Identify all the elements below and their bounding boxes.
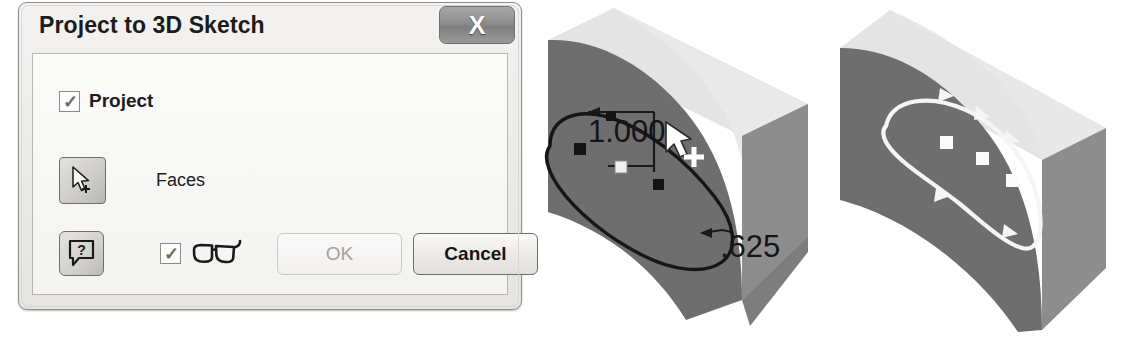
faces-select-button[interactable]: [59, 157, 106, 204]
faces-label: Faces: [156, 170, 205, 191]
dialog-title: Project to 3D Sketch: [39, 12, 265, 39]
ok-button[interactable]: OK: [277, 233, 402, 275]
sketch-point: [574, 143, 586, 155]
sketch-point: [606, 111, 616, 121]
project-to-3d-sketch-dialog: Project to 3D Sketch X ✓ Project: [18, 2, 522, 310]
close-button[interactable]: X: [439, 6, 515, 44]
dialog-titlebar: Project to 3D Sketch X: [19, 3, 521, 49]
cancel-button[interactable]: Cancel: [413, 233, 538, 275]
faces-selector-row: Faces: [59, 157, 205, 204]
cancel-button-label: Cancel: [444, 243, 506, 265]
checkmark-icon: ✓: [63, 92, 78, 112]
sketch-point: [1006, 174, 1019, 187]
right-3d-model: [818, 0, 1122, 338]
checkmark-icon: ✓: [164, 244, 179, 264]
left-3d-model: 1.000 .625: [536, 0, 826, 338]
sketch-point: [940, 136, 953, 149]
dimension-625-text: .625: [720, 229, 780, 264]
arrow-cursor-icon: [70, 166, 96, 196]
eyeglasses-preview-icon: [190, 238, 248, 268]
left-model-viewport: 1.000 .625: [536, 0, 826, 338]
dialog-body-panel: ✓ Project Faces ?: [32, 53, 508, 295]
ok-button-label: OK: [326, 243, 353, 265]
preview-checkbox[interactable]: ✓: [160, 243, 181, 264]
sketch-point: [976, 152, 989, 165]
close-icon: X: [469, 13, 486, 38]
project-checkbox-row[interactable]: ✓ Project: [59, 90, 153, 112]
help-button[interactable]: ?: [59, 231, 104, 276]
sketch-point-highlighted: [615, 161, 627, 173]
project-checkbox-label: Project: [89, 90, 153, 112]
sketch-point: [653, 179, 664, 190]
dimension-1000-text: 1.000: [588, 114, 666, 149]
block-right-face: [1042, 128, 1106, 330]
screenshot-stage: Project to 3D Sketch X ✓ Project: [0, 0, 1122, 338]
question-mark-help-icon: ?: [68, 239, 97, 269]
svg-text:?: ?: [77, 242, 86, 258]
project-checkbox[interactable]: ✓: [59, 91, 80, 112]
preview-toggle-row[interactable]: ✓: [160, 238, 248, 268]
right-model-viewport: [818, 0, 1122, 338]
